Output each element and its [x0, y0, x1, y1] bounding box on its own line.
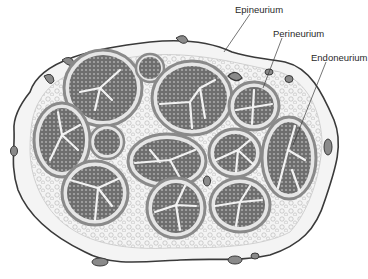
fascicle-6: [90, 125, 124, 159]
fascicle-8: [209, 129, 261, 177]
fascicle-11: [147, 178, 205, 238]
label-epineurium: Epineurium: [235, 4, 283, 15]
fascicle-3: [152, 61, 232, 135]
label-perineurium: Perineurium: [273, 28, 324, 39]
fascicle-12: [210, 178, 270, 232]
fascicle-10: [62, 161, 128, 225]
label-endoneurium: Endoneurium: [311, 52, 368, 63]
epineurium-leader: [224, 14, 250, 52]
fascicle-9-endoneurium: [262, 117, 316, 199]
fascicle-4-perineurium: [229, 82, 279, 130]
